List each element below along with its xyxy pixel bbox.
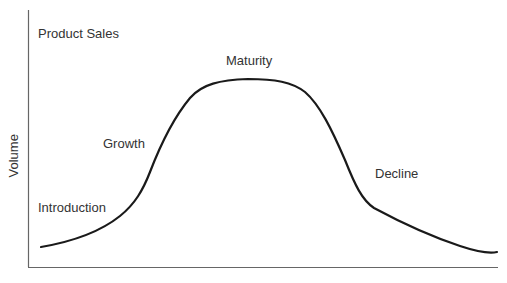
sales-curve bbox=[41, 79, 497, 253]
stage-label-decline: Decline bbox=[375, 166, 418, 181]
y-axis-label: Volume bbox=[6, 138, 21, 178]
chart-title: Product Sales bbox=[38, 26, 119, 41]
chart-canvas bbox=[0, 0, 507, 283]
stage-label-maturity: Maturity bbox=[226, 53, 272, 68]
stage-label-growth: Growth bbox=[103, 136, 145, 151]
product-life-cycle-chart: Product Sales Volume Introduction Growth… bbox=[0, 0, 507, 283]
stage-label-introduction: Introduction bbox=[38, 200, 106, 215]
